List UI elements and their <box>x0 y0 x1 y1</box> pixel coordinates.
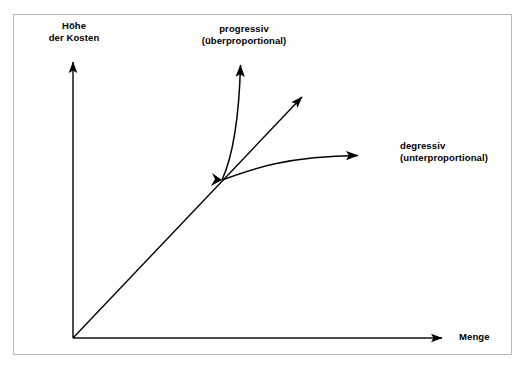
degressive-curve-label: degressiv (unterproportional) <box>400 140 522 164</box>
degressive-label-line2: (unterproportional) <box>400 152 522 164</box>
diagram-canvas <box>0 0 528 369</box>
y-axis-label-line1: Höhe <box>34 20 114 32</box>
y-axis-label-line2: der Kosten <box>34 32 114 44</box>
progressive-cost-curve <box>222 65 241 180</box>
progressive-curve-label: progressiv (überproportional) <box>176 23 312 47</box>
branch-point-arrowhead <box>211 173 222 186</box>
proportional-cost-line <box>73 97 302 338</box>
x-axis-label: Menge <box>459 331 490 343</box>
y-axis-label: Höhe der Kosten <box>34 20 114 44</box>
cost-function-diagram-page: Höhe der Kosten progressiv (überproporti… <box>0 0 528 369</box>
progressive-label-line2: (überproportional) <box>176 35 312 47</box>
degressive-label-line1: degressiv <box>400 140 522 152</box>
progressive-label-line1: progressiv <box>176 23 312 35</box>
